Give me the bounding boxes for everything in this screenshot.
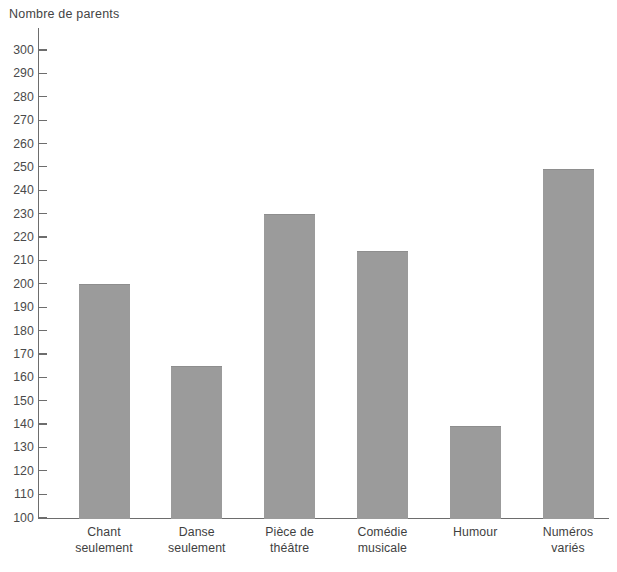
y-tick-label: 160 <box>0 370 34 384</box>
x-category-label-line: musicale <box>327 541 437 557</box>
y-tick-label-wrap: 290 <box>0 66 34 80</box>
y-tick-label-wrap: 180 <box>0 324 34 338</box>
y-tick-mark <box>39 330 47 331</box>
y-tick-label-wrap: 240 <box>0 183 34 197</box>
y-tick-label: 200 <box>0 277 34 291</box>
y-tick-label: 250 <box>0 160 34 174</box>
y-tick-label-wrap: 230 <box>0 207 34 221</box>
y-tick-label-wrap: 210 <box>0 253 34 267</box>
y-tick-mark <box>39 353 47 354</box>
y-tick-label-wrap: 250 <box>0 160 34 174</box>
bar <box>79 284 130 519</box>
y-tick-mark <box>39 49 47 50</box>
y-tick-label: 130 <box>0 440 34 454</box>
y-tick-label-wrap: 100 <box>0 511 34 525</box>
y-tick-label: 140 <box>0 417 34 431</box>
y-tick-label: 220 <box>0 230 34 244</box>
y-tick-label: 240 <box>0 183 34 197</box>
y-tick-label: 120 <box>0 464 34 478</box>
bar <box>543 169 594 518</box>
y-tick-mark <box>39 96 47 97</box>
y-tick-label: 190 <box>0 300 34 314</box>
y-tick-mark <box>39 283 47 284</box>
y-tick-mark <box>39 377 47 378</box>
y-tick-mark <box>39 400 47 401</box>
bar <box>171 366 222 519</box>
x-category-label-line: variés <box>513 541 617 557</box>
y-tick-label-wrap: 150 <box>0 394 34 408</box>
x-category-label: Numérosvariés <box>513 525 617 556</box>
y-tick-label: 270 <box>0 113 34 127</box>
y-tick-mark <box>39 120 47 121</box>
y-tick-label: 110 <box>0 487 34 501</box>
y-tick-label-wrap: 270 <box>0 113 34 127</box>
bar <box>264 214 315 519</box>
y-axis-title: Nombre de parents <box>9 7 119 21</box>
y-tick-label: 170 <box>0 347 34 361</box>
y-tick-label: 210 <box>0 253 34 267</box>
y-tick-mark <box>39 190 47 191</box>
y-axis-line <box>38 28 39 519</box>
y-tick-label: 290 <box>0 66 34 80</box>
y-tick-label-wrap: 140 <box>0 417 34 431</box>
y-tick-mark <box>39 470 47 471</box>
y-tick-label: 230 <box>0 207 34 221</box>
y-tick-label: 150 <box>0 394 34 408</box>
y-tick-label: 180 <box>0 324 34 338</box>
y-tick-label-wrap: 110 <box>0 487 34 501</box>
y-tick-label: 280 <box>0 90 34 104</box>
y-tick-mark <box>39 307 47 308</box>
bar-chart: Nombre de parents 3002902802702602502402… <box>0 0 617 572</box>
y-tick-mark <box>39 143 47 144</box>
y-tick-label: 100 <box>0 511 34 525</box>
y-tick-mark <box>39 517 47 518</box>
y-tick-label-wrap: 160 <box>0 370 34 384</box>
y-tick-label-wrap: 120 <box>0 464 34 478</box>
y-tick-mark <box>39 236 47 237</box>
y-tick-label: 260 <box>0 137 34 151</box>
y-tick-label-wrap: 130 <box>0 440 34 454</box>
y-tick-label-wrap: 280 <box>0 90 34 104</box>
x-category-label-line: Numéros <box>513 525 617 541</box>
y-tick-mark <box>39 213 47 214</box>
y-tick-mark <box>39 166 47 167</box>
y-tick-label-wrap: 190 <box>0 300 34 314</box>
y-tick-label-wrap: 260 <box>0 137 34 151</box>
y-tick-mark <box>39 494 47 495</box>
y-tick-label-wrap: 200 <box>0 277 34 291</box>
y-tick-label-wrap: 220 <box>0 230 34 244</box>
y-tick-label-wrap: 300 <box>0 43 34 57</box>
bar <box>450 426 501 518</box>
y-tick-mark <box>39 260 47 261</box>
y-tick-mark <box>39 423 47 424</box>
y-tick-mark <box>39 447 47 448</box>
y-tick-label: 300 <box>0 43 34 57</box>
y-tick-mark <box>39 73 47 74</box>
bar <box>357 251 408 519</box>
y-tick-label-wrap: 170 <box>0 347 34 361</box>
